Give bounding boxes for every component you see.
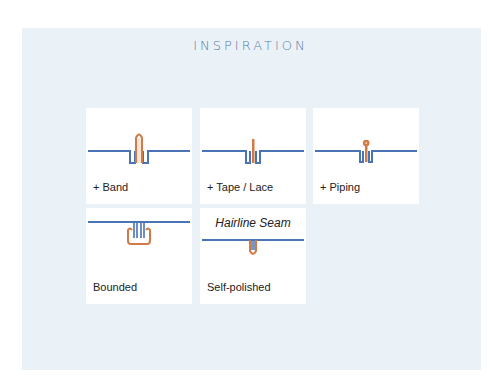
card-tape-lace: + Tape / Lace bbox=[200, 108, 306, 204]
section-title: INSPIRATION bbox=[0, 38, 501, 53]
card-label: + Piping bbox=[320, 181, 360, 193]
card-label: Self-polished bbox=[207, 281, 271, 293]
card-bounded: Bounded bbox=[86, 208, 192, 304]
card-self-polished: Hairline Seam Self-polished bbox=[200, 208, 306, 304]
card-piping: + Piping bbox=[313, 108, 419, 204]
card-label: + Tape / Lace bbox=[207, 181, 273, 193]
card-label: + Band bbox=[93, 181, 128, 193]
card-band: + Band bbox=[86, 108, 192, 204]
card-label: Bounded bbox=[93, 281, 137, 293]
